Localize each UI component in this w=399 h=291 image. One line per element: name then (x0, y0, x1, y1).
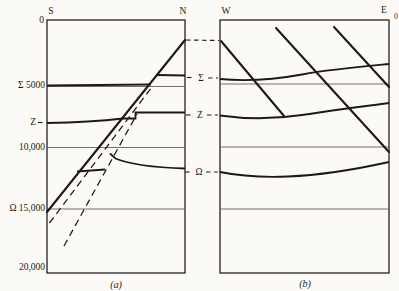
panel-a-horizon-sigma-north (157, 75, 185, 76)
cross-section-figure: SNWE00Σ 5000Ζ10,000Ω 15,00020,000ΣΖΩ(a)(… (0, 0, 399, 291)
axis-top-label-n: N (180, 6, 187, 16)
depth-tick-20000: 20,000 (19, 262, 45, 272)
panel-a-caption: (a) (110, 279, 122, 291)
panel-b-fault-east (334, 27, 389, 87)
axis-top-label-w: W (222, 6, 231, 16)
horizon-label-omega-mid: Ω (195, 167, 202, 177)
panel-a-horizon-zeta (47, 113, 185, 124)
connector-fault-top (186, 40, 219, 41)
depth-tick-0: 0 (39, 15, 44, 25)
axis-top-label-e-zero: 0 (394, 12, 398, 21)
depth-tick-10000: 10,000 (19, 142, 45, 152)
panel-b-caption: (b) (299, 278, 311, 290)
panel-b-fault-middle (276, 28, 389, 152)
depth-tick-sigma-5000: Σ 5000 (18, 80, 45, 90)
horizon-label-zeta-mid: Ζ (197, 110, 203, 120)
depth-tick-omega-15000: Ω 15,000 (9, 203, 45, 213)
horizon-label-sigma-mid: Σ (198, 73, 204, 83)
panel-a-horizon-omega-north (110, 154, 185, 169)
panel-a-fault-dashed-outer (64, 114, 137, 246)
figure-canvas: SNWE00Σ 5000Ζ10,000Ω 15,00020,000ΣΖΩ(a)(… (0, 0, 399, 291)
axis-top-label-s: S (48, 6, 53, 16)
axis-top-label-e: E (381, 5, 387, 15)
panel-a-border (47, 20, 185, 273)
panel-b-horizon-sigma (220, 64, 389, 80)
panel-b-horizon-omega (220, 162, 389, 177)
depth-tick-zeta: Ζ (30, 117, 36, 127)
panel-a-fault-dashed-inner (50, 86, 154, 224)
panel-a-horizon-sigma-south (47, 85, 151, 86)
panel-a-fault-solid (47, 40, 185, 212)
panel-b-horizon-zeta (220, 103, 389, 118)
